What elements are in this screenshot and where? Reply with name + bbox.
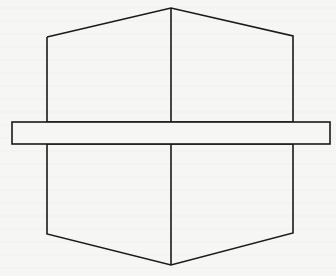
diagram-canvas [0, 0, 336, 276]
upper-pentagon [47, 8, 293, 122]
horizontal-band [12, 122, 330, 144]
geometric-drawing [0, 0, 336, 276]
lower-pentagon [47, 144, 293, 265]
